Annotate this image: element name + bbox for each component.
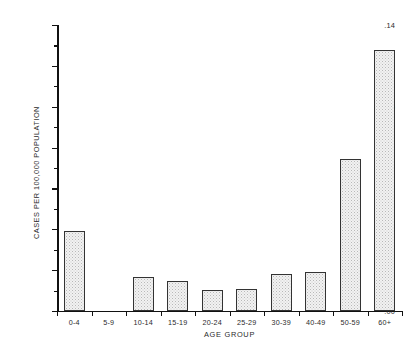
y-axis-line [57, 25, 59, 311]
x-axis-tick-label: 30-39 [272, 318, 291, 327]
y-axis-tick [52, 229, 57, 230]
y-axis-tick [52, 270, 57, 271]
bar [167, 281, 188, 311]
x-axis-tick [299, 311, 300, 316]
bar-chart: CASES PER 100,000 POPULATION .00.02.04.0… [0, 0, 418, 358]
bar [133, 277, 154, 311]
x-axis-tick-label: 5-9 [103, 318, 114, 327]
x-axis-tick [57, 311, 58, 316]
x-axis-tick-label: 50-59 [341, 318, 360, 327]
x-axis-tick-label: 25-29 [237, 318, 256, 327]
y-axis-minor-tick [54, 291, 57, 292]
plot-area: .00.02.04.06.08.10.12.140-45-910-1415-19… [57, 25, 402, 311]
y-axis-tick [52, 148, 57, 149]
x-axis-tick [333, 311, 334, 316]
y-axis-tick [52, 25, 57, 26]
x-axis-tick-label: 40-49 [306, 318, 325, 327]
x-axis-tick [368, 311, 369, 316]
y-axis-title: CASES PER 100,000 POPULATION [32, 58, 41, 288]
y-axis-minor-tick [54, 45, 57, 46]
y-axis-tick [52, 107, 57, 108]
y-axis-minor-tick [54, 168, 57, 169]
bar [271, 274, 292, 311]
x-axis-tick [264, 311, 265, 316]
y-axis-minor-tick [54, 86, 57, 87]
x-axis-tick [195, 311, 196, 316]
x-axis-title: AGE GROUP [57, 330, 402, 339]
y-axis-tick [52, 66, 57, 67]
x-axis-tick [402, 311, 403, 316]
y-axis-tick-label: .14 [384, 21, 395, 30]
bar [202, 290, 223, 311]
bar [64, 231, 85, 311]
y-axis-minor-tick [54, 250, 57, 251]
bar [305, 272, 326, 311]
y-axis-tick [52, 188, 57, 189]
x-axis-tick-label: 60+ [378, 318, 391, 327]
bar [340, 159, 361, 311]
x-axis-tick [230, 311, 231, 316]
bar [236, 289, 257, 311]
x-axis-tick [126, 311, 127, 316]
x-axis-tick-label: 0-4 [69, 318, 80, 327]
x-axis-tick [92, 311, 93, 316]
bar [374, 50, 395, 311]
x-axis-tick-label: 20-24 [203, 318, 222, 327]
y-axis-minor-tick [54, 127, 57, 128]
x-axis-tick [161, 311, 162, 316]
x-axis-tick-label: 10-14 [134, 318, 153, 327]
x-axis-tick-label: 15-19 [168, 318, 187, 327]
y-axis-minor-tick [54, 209, 57, 210]
